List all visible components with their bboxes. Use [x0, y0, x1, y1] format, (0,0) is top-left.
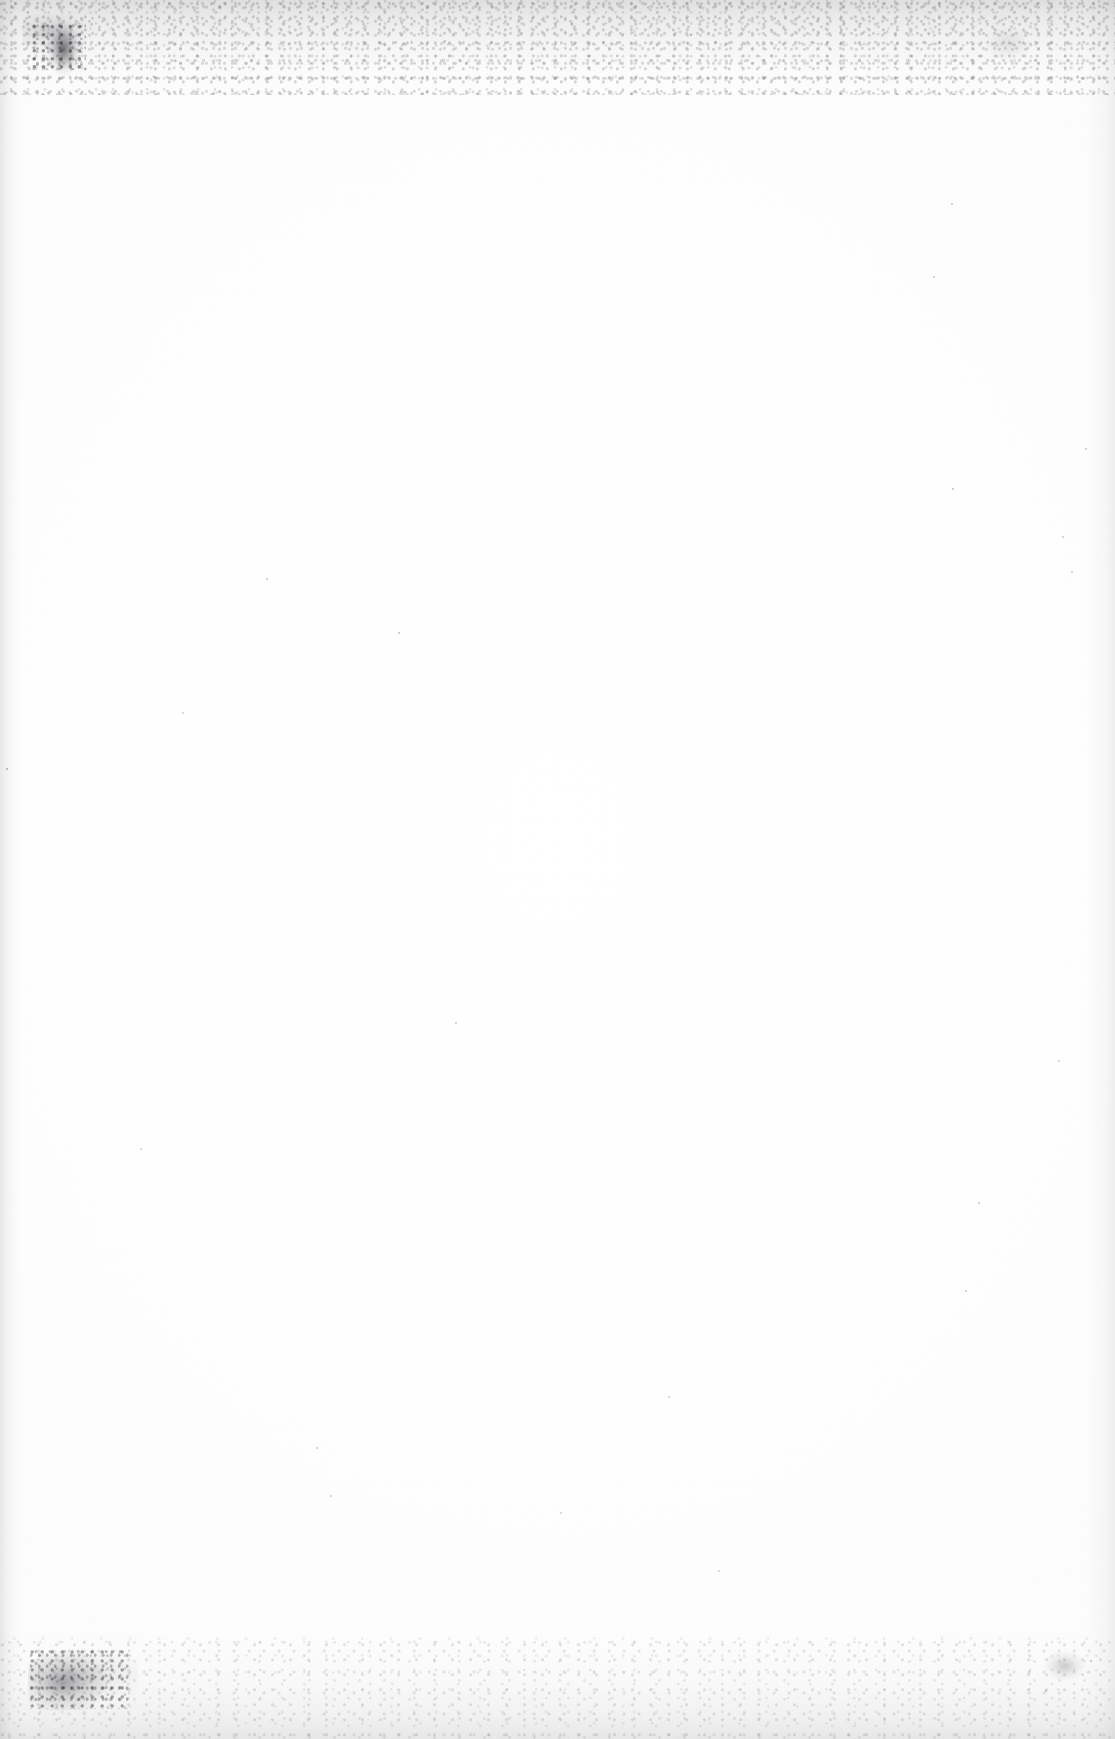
- scanned-page: [0, 0, 1115, 1739]
- page-text-content: [95, 120, 1020, 1599]
- bottom-left-smudge-flecks: [30, 1647, 130, 1709]
- bottom-left-smudge: [28, 1643, 138, 1711]
- dust-speck: [6, 768, 8, 770]
- right-edge-shadow: [1085, 0, 1115, 1739]
- bottom-noise-band: [0, 1634, 1115, 1739]
- dust-speck: [1045, 1690, 1047, 1692]
- top-left-smudge-flecks: [30, 22, 86, 70]
- top-left-smudge: [22, 14, 94, 76]
- dust-speck: [690, 34, 692, 36]
- top-noise-band: [0, 0, 1115, 95]
- dust-speck: [230, 28, 232, 30]
- dust-speck: [1058, 1060, 1060, 1062]
- bottom-right-smudge: [1025, 1641, 1089, 1693]
- dust-speck: [1062, 536, 1064, 538]
- dust-speck: [1085, 448, 1087, 450]
- dust-speck: [1090, 1660, 1092, 1662]
- dust-speck: [796, 92, 798, 94]
- top-right-smudge: [979, 22, 1037, 68]
- dust-speck: [1071, 571, 1073, 573]
- bottom-noise-speckle: [0, 1634, 1115, 1739]
- left-edge-shadow: [0, 0, 22, 1739]
- top-noise-speckle: [0, 0, 1115, 95]
- dust-speck: [444, 40, 446, 42]
